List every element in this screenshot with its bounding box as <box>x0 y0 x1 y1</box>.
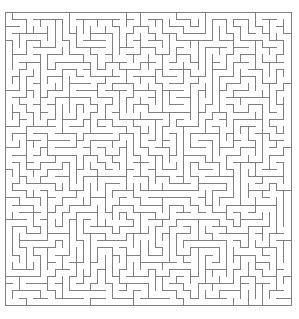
maze-grid <box>0 0 299 319</box>
maze-figure <box>0 0 299 319</box>
